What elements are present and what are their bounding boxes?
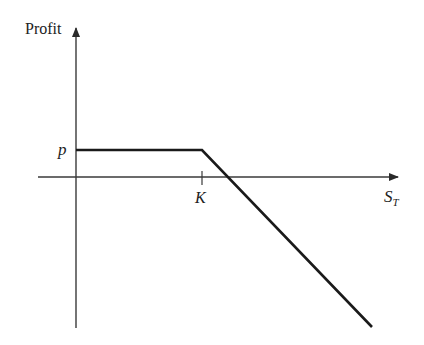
strike-label: K — [194, 189, 207, 206]
x-axis-label: ST — [384, 187, 400, 208]
x-axis-label-subscript: T — [393, 196, 400, 208]
profit-diagram: Profit p K ST — [0, 0, 424, 345]
premium-label: p — [57, 140, 67, 159]
y-axis-label: Profit — [25, 20, 62, 37]
